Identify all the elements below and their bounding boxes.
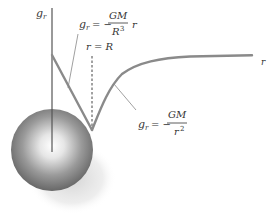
svg-text:r: r <box>132 19 138 30</box>
svg-text:r: r <box>145 124 149 132</box>
svg-text:r: r <box>43 13 47 21</box>
svg-text:3: 3 <box>120 25 124 33</box>
svg-text:g: g <box>138 118 145 131</box>
x-axis-label: r <box>261 57 266 67</box>
svg-text:= −: = − <box>151 119 171 130</box>
svg-text:g: g <box>79 18 86 31</box>
gravity-field-diagram: g r r r = R g r = − GM R 3 r g r = − GM … <box>0 0 274 220</box>
svg-text:g: g <box>36 7 43 20</box>
inside-formula-leader <box>68 34 78 88</box>
outside-formula-leader <box>114 84 136 110</box>
inside-field-formula: g r = − GM R 3 r <box>79 10 138 37</box>
y-axis-label: g r <box>36 7 47 21</box>
svg-text:r: r <box>86 24 90 32</box>
svg-text:GM: GM <box>168 109 187 120</box>
svg-text:2: 2 <box>180 125 184 133</box>
r-equals-R-label: r = R <box>86 41 114 52</box>
svg-text:GM: GM <box>109 10 128 21</box>
outside-field-formula: g r = − GM r 2 <box>138 109 187 137</box>
svg-text:R: R <box>111 26 120 37</box>
